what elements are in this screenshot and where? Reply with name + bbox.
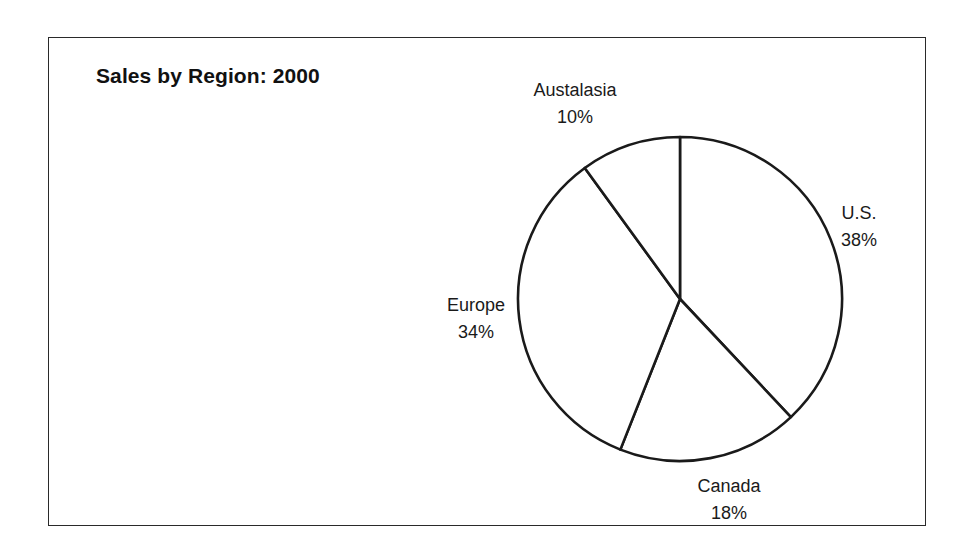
slice-label-canada-name: Canada bbox=[697, 473, 760, 500]
slice-label-europe: Europe 34% bbox=[447, 292, 505, 346]
slice-label-austalasia-name: Austalasia bbox=[533, 77, 616, 104]
slice-label-us-name: U.S. bbox=[841, 200, 877, 227]
slice-label-canada-pct: 18% bbox=[697, 500, 760, 527]
slice-label-us: U.S. 38% bbox=[841, 200, 877, 254]
slice-label-us-pct: 38% bbox=[841, 227, 877, 254]
slice-label-canada: Canada 18% bbox=[697, 473, 760, 527]
pie-chart bbox=[0, 0, 975, 555]
slice-label-europe-pct: 34% bbox=[447, 319, 505, 346]
slice-label-austalasia: Austalasia 10% bbox=[533, 77, 616, 131]
slice-label-europe-name: Europe bbox=[447, 292, 505, 319]
slice-label-austalasia-pct: 10% bbox=[533, 104, 616, 131]
pie-slices bbox=[518, 137, 842, 461]
